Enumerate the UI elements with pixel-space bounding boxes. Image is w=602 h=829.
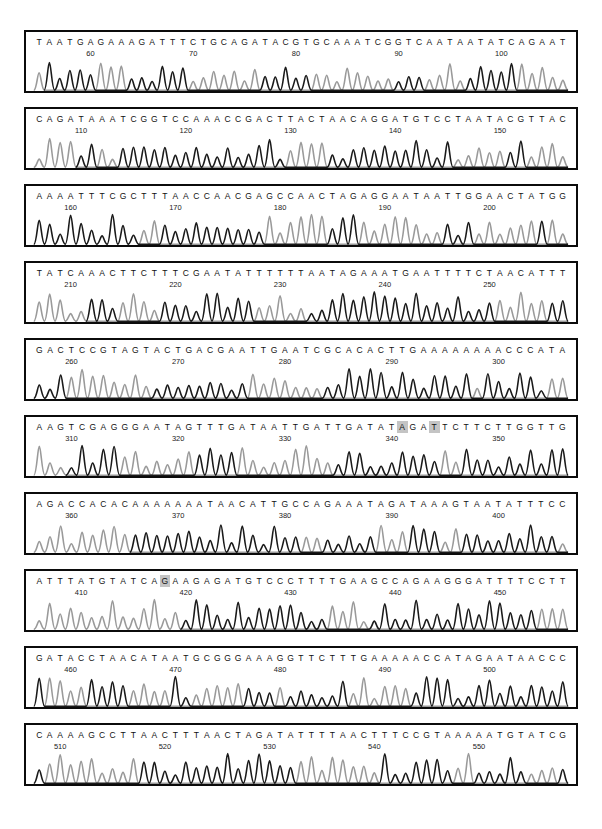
base-letter: A: [516, 36, 526, 48]
base-letter: T: [557, 267, 567, 279]
base-letter: T: [440, 421, 451, 433]
base-letter: T: [504, 421, 515, 433]
base-letter: T: [149, 652, 159, 664]
trace-line-dark: [34, 677, 568, 707]
base-letter: A: [495, 190, 505, 202]
base-letter: A: [151, 421, 162, 433]
trace-panel-inner: GACTCCGTAGTACTGACGAATTGAATCGCACACTTGAAAA…: [26, 340, 576, 399]
trace-panel: GACTCCGTAGTACTGACGAATTGAATCGCACACTTGAAAA…: [24, 338, 578, 401]
electropherogram-trace: [26, 442, 576, 476]
base-letter: T: [205, 498, 216, 510]
trace-panel-inner: AGACCACACAAAAAAATAACATTGCCAGAAATAGATAAAG…: [26, 494, 576, 553]
base-sequence-row: GATACCTAACATAATGCGGGAAAGGTTCTTTGAAAAACCA…: [26, 652, 576, 664]
base-letter: C: [128, 113, 138, 125]
base-sequence-row: ATTTATGTATCAGAAGAGATGTCCCTTTTGAAGCCAGAAG…: [26, 575, 576, 587]
base-letter: T: [445, 36, 455, 48]
base-letter: T: [397, 344, 408, 356]
base-letter: C: [202, 190, 212, 202]
base-letter: T: [317, 729, 327, 741]
base-letter: C: [359, 729, 369, 741]
base-letter: T: [243, 267, 253, 279]
base-letter: T: [275, 729, 285, 741]
base-letter: G: [222, 652, 232, 664]
base-letter: A: [202, 729, 212, 741]
base-letter: T: [475, 36, 485, 48]
trace-line-dark: [34, 754, 568, 784]
base-letter: A: [296, 190, 306, 202]
base-letter: A: [482, 344, 493, 356]
base-letter: C: [86, 652, 96, 664]
trace-line-dark: [130, 525, 568, 552]
base-letter: T: [167, 36, 177, 48]
base-letter: T: [327, 267, 337, 279]
base-letter: C: [107, 190, 117, 202]
base-letter: T: [285, 113, 295, 125]
base-letter: A: [359, 190, 369, 202]
base-letter: A: [279, 344, 290, 356]
base-letter: A: [290, 344, 301, 356]
base-letter: A: [116, 36, 126, 48]
base-letter: G: [239, 36, 249, 48]
trace-panel: TAATGAGAAAGATTTCTGCAGATACGTGCAAATCGGTCAA…: [24, 30, 578, 93]
base-letter: A: [202, 267, 212, 279]
base-letter: A: [170, 652, 180, 664]
base-letter: T: [363, 36, 373, 48]
base-letter: T: [285, 267, 295, 279]
base-letter: A: [421, 190, 431, 202]
base-letter: T: [34, 267, 44, 279]
base-letter: C: [160, 729, 170, 741]
base-letter: A: [98, 421, 109, 433]
electropherogram-trace: [26, 288, 576, 322]
base-letter: C: [414, 36, 424, 48]
base-letter: A: [212, 267, 222, 279]
base-letter: C: [237, 498, 248, 510]
base-letter: A: [338, 267, 348, 279]
electropherogram-trace: [26, 750, 576, 784]
base-sequence-row: TAATGAGAAAGATTTCTGCAGATACGTGCAAATCGGTCAA…: [26, 36, 576, 48]
base-letter: A: [379, 652, 389, 664]
base-letter: T: [247, 421, 258, 433]
base-letter: G: [379, 190, 389, 202]
base-letter: A: [365, 344, 376, 356]
base-sequence-row: AAGTCGAGGGAATAGTTTGATAATTGATTGATATAGATTC…: [26, 421, 576, 433]
base-letter: A: [359, 267, 369, 279]
base-letter: T: [461, 421, 472, 433]
base-letter: C: [119, 498, 130, 510]
electropherogram-trace: [26, 673, 576, 707]
base-letter: A: [170, 575, 180, 587]
base-letter: C: [482, 421, 493, 433]
base-letter: A: [493, 344, 504, 356]
base-letter: T: [386, 344, 397, 356]
base-letter: T: [254, 267, 264, 279]
base-letter: C: [65, 267, 75, 279]
base-letter: T: [139, 190, 149, 202]
base-letter: A: [34, 498, 45, 510]
base-letter: G: [149, 113, 159, 125]
trace-line-dark: [66, 446, 568, 476]
base-letter: C: [139, 575, 149, 587]
base-letter: G: [322, 344, 333, 356]
base-letter: T: [390, 267, 400, 279]
base-letter: A: [151, 344, 162, 356]
base-letter: T: [118, 729, 128, 741]
base-letter: G: [183, 344, 194, 356]
base-letter: A: [85, 36, 95, 48]
base-letter: T: [162, 421, 173, 433]
base-letter: A: [311, 421, 322, 433]
base-letter: T: [118, 113, 128, 125]
base-letter: A: [130, 498, 141, 510]
base-letter: G: [118, 190, 128, 202]
base-letter: A: [434, 36, 444, 48]
base-letter: G: [215, 344, 226, 356]
base-letter: G: [557, 190, 567, 202]
base-letter: G: [383, 36, 393, 48]
base-letter: G: [137, 36, 147, 48]
base-letter: C: [87, 344, 98, 356]
base-letter: A: [418, 421, 429, 433]
base-letter: G: [411, 113, 421, 125]
base-letter: C: [97, 729, 107, 741]
base-letter: G: [547, 190, 557, 202]
base-letter: G: [343, 421, 354, 433]
base-letter: T: [327, 652, 337, 664]
base-letter: T: [141, 344, 152, 356]
